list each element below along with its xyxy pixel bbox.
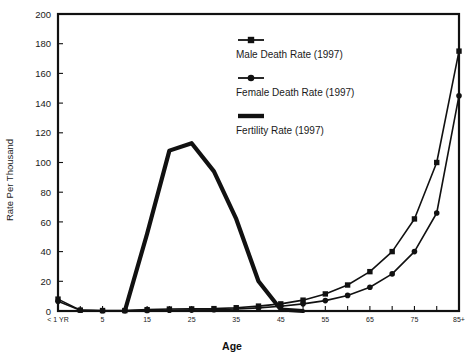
rate-per-thousand-line-chart: 020406080100120140160180200 < 1 YR515253… (0, 0, 467, 358)
legend-label: Fertility Rate (1997) (236, 125, 324, 136)
y-axis-tick-labels: 020406080100120140160180200 (35, 9, 51, 317)
data-point-marker (100, 308, 106, 314)
data-point-marker (389, 271, 395, 277)
x-tick-label: 5 (101, 316, 105, 323)
y-tick-label: 160 (35, 68, 51, 79)
x-axis-title: Age (222, 340, 242, 352)
y-tick-label: 140 (35, 98, 51, 109)
y-tick-label: 120 (35, 127, 51, 138)
y-tick-label: 80 (40, 187, 51, 198)
data-point-marker (412, 249, 418, 255)
data-point-marker (189, 307, 195, 313)
x-tick-label: 25 (188, 316, 196, 323)
x-tick-label: 65 (366, 316, 374, 323)
data-point-marker (233, 306, 239, 312)
y-tick-label: 20 (40, 276, 51, 287)
data-point-marker (77, 307, 83, 313)
series-3 (125, 143, 303, 311)
legend-item-2: Female Death Rate (1997) (236, 75, 354, 98)
chart-figure: 020406080100120140160180200 < 1 YR515253… (0, 0, 467, 358)
y-tick-label: 180 (35, 38, 51, 49)
data-point-marker (367, 269, 372, 274)
data-point-marker (456, 48, 461, 53)
x-axis-tick-labels: < 1 YR51525354555657585+ (47, 316, 465, 323)
data-point-marker (456, 93, 462, 99)
y-axis-title: Rate Per Thousand (4, 139, 15, 221)
data-point-marker (144, 308, 150, 314)
data-point-marker (323, 298, 329, 304)
y-tick-label: 60 (40, 217, 51, 228)
x-tick-label: 55 (321, 316, 329, 323)
y-tick-label: 200 (35, 9, 51, 20)
data-point-marker (345, 293, 351, 299)
y-tick-label: 100 (35, 157, 51, 168)
legend-label: Female Death Rate (1997) (236, 87, 354, 98)
data-point-marker (389, 249, 394, 254)
data-point-marker (434, 160, 439, 165)
x-tick-label: 35 (232, 316, 240, 323)
x-tick-label: 85+ (453, 316, 465, 323)
legend-item-3: Fertility Rate (1997) (236, 116, 324, 136)
data-point-marker (367, 284, 373, 290)
data-point-marker (167, 307, 173, 313)
data-point-marker (55, 299, 61, 305)
legend-label: Male Death Rate (1997) (236, 49, 343, 60)
data-point-marker (323, 291, 328, 296)
data-point-marker (434, 210, 440, 216)
y-tick-label: 0 (46, 306, 51, 317)
data-point-marker (211, 307, 217, 313)
x-tick-label: 45 (277, 316, 285, 323)
x-tick-label: < 1 YR (47, 316, 68, 323)
y-tick-label: 40 (40, 246, 51, 257)
data-point-marker (412, 216, 417, 221)
x-tick-label: 15 (143, 316, 151, 323)
data-point-marker (345, 282, 350, 287)
legend-item-1: Male Death Rate (1997) (236, 37, 343, 60)
data-point-marker (256, 305, 262, 311)
chart-legend: Male Death Rate (1997)Female Death Rate … (236, 37, 354, 136)
data-point-marker (300, 301, 306, 307)
x-tick-label: 75 (411, 316, 419, 323)
